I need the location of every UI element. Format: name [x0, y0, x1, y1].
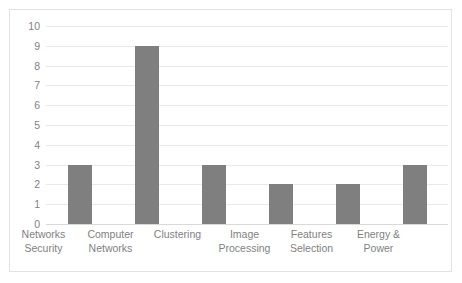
- y-axis-tick-label: 9: [34, 41, 40, 52]
- gridline: [46, 46, 448, 47]
- x-axis-category-label-line: Processing: [209, 242, 281, 256]
- x-axis-category-label: Clustering: [142, 228, 214, 242]
- bar[interactable]: [403, 165, 427, 224]
- y-axis-tick-label: 6: [34, 100, 40, 111]
- gridline: [46, 125, 448, 126]
- gridline: [46, 105, 448, 106]
- x-axis-category-label-line: Selection: [276, 242, 348, 256]
- y-axis-tick-label: 5: [34, 120, 40, 131]
- x-axis-category-label-line: Features: [276, 228, 348, 242]
- x-axis-category-label: FeaturesSelection: [276, 228, 348, 255]
- gridline: [46, 204, 448, 205]
- x-axis-category-label-line: Networks: [8, 228, 80, 242]
- y-axis-tick-label: 8: [34, 60, 40, 71]
- gridline: [46, 26, 448, 27]
- gridline: [46, 145, 448, 146]
- bar[interactable]: [336, 184, 360, 224]
- x-axis-category-label: Energy &Power: [343, 228, 415, 255]
- x-axis-labels: NetworksSecurityComputerNetworksClusteri…: [46, 228, 448, 272]
- y-axis-tick-label: 7: [34, 80, 40, 91]
- x-axis-category-label: ImageProcessing: [209, 228, 281, 255]
- bar[interactable]: [202, 165, 226, 224]
- gridline: [46, 66, 448, 67]
- x-axis-category-label-line: Security: [8, 242, 80, 256]
- gridline: [46, 85, 448, 86]
- bar[interactable]: [135, 46, 159, 224]
- gridline: [46, 165, 448, 166]
- x-axis-category-label-line: Clustering: [142, 228, 214, 242]
- x-axis-category-label-line: Energy &: [343, 228, 415, 242]
- gridline: [46, 184, 448, 185]
- x-axis-category-label: ComputerNetworks: [75, 228, 147, 255]
- x-axis-category-label-line: Computer: [75, 228, 147, 242]
- y-axis-tick-label: 10: [28, 21, 40, 32]
- gridline: [46, 224, 448, 225]
- y-axis-tick-label: 2: [34, 179, 40, 190]
- y-axis-tick-label: 3: [34, 159, 40, 170]
- x-axis-category-label-line: Power: [343, 242, 415, 256]
- plot-area: 109876543210: [46, 26, 448, 224]
- y-axis-tick-label: 1: [34, 199, 40, 210]
- x-axis-category-label-line: Networks: [75, 242, 147, 256]
- bar[interactable]: [68, 165, 92, 224]
- y-axis-tick-label: 4: [34, 140, 40, 151]
- x-axis-category-label-line: Image: [209, 228, 281, 242]
- x-axis-category-label: NetworksSecurity: [8, 228, 80, 255]
- bar[interactable]: [269, 184, 293, 224]
- chart-frame: 109876543210 NetworksSecurityComputerNet…: [9, 9, 452, 272]
